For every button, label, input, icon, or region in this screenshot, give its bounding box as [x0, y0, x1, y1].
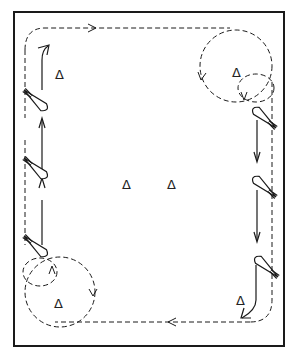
skier-right-3-icon — [252, 254, 281, 280]
arrow-circle-top-right-icon — [198, 72, 206, 80]
skier-right-2-icon — [250, 174, 279, 200]
cone-center-right-icon: Δ — [167, 177, 176, 192]
circle-bottom-left — [23, 257, 95, 327]
cone-bottom-left-icon: Δ — [54, 296, 63, 311]
arrow-up-left-2-icon — [39, 178, 45, 188]
cone-center-left-icon: Δ — [122, 177, 131, 192]
cone-top-right-icon: Δ — [232, 65, 241, 80]
skier-left-3-icon — [21, 233, 50, 259]
cone-top-left-icon: Δ — [55, 67, 64, 82]
diagram-svg: Δ Δ Δ Δ Δ Δ — [0, 0, 299, 358]
left-skier-path — [42, 46, 48, 245]
arrow-circle-bottom-left-icon — [89, 289, 97, 296]
cone-bottom-right-icon: Δ — [236, 293, 245, 308]
diagram-canvas: Drill pattern diagram — [0, 0, 299, 358]
skier-right-1-icon — [250, 105, 279, 131]
right-skier-path — [242, 120, 257, 318]
arrow-up-small-icon — [49, 266, 55, 274]
